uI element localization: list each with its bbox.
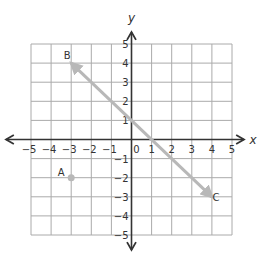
point-label-b: B [64,50,71,61]
y-tick-label: 4 [122,58,128,69]
x-tick-label: 1 [148,144,154,155]
x-tick-label: −2 [82,144,97,155]
y-tick-label: −4 [114,211,129,222]
y-tick-label: −2 [114,173,129,184]
y-axis-label: y [127,11,136,25]
y-tick-label: 5 [122,39,128,50]
y-tick-label: 2 [122,96,128,107]
x-tick-label: −4 [42,144,57,155]
x-tick-label: 0 [133,144,139,155]
x-tick-label: −3 [62,144,77,155]
y-tick-label: −1 [114,154,129,165]
x-axis-label: x [248,133,257,147]
line-bc [71,63,212,197]
line-and-points: ABC [58,50,220,203]
coordinate-plane: xy −5−4−3−2−101234554321−1−2−3−4−5 ABC [0,0,269,261]
axes: xy [6,11,257,250]
point-label-a: A [58,167,65,178]
x-tick-label: 4 [209,144,215,155]
x-tick-label: −5 [22,144,37,155]
x-tick-label: 5 [229,144,235,155]
point-a [68,174,75,181]
x-tick-label: 2 [169,144,175,155]
y-tick-label: 3 [122,77,128,88]
point-label-c: C [212,192,219,203]
y-tick-label: −5 [114,230,129,241]
y-tick-label: −3 [114,192,129,203]
x-tick-label: 3 [189,144,195,155]
